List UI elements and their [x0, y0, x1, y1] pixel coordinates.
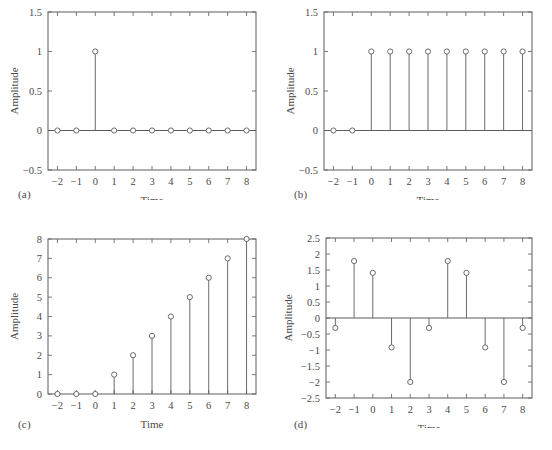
x-tick-label: 1	[388, 176, 393, 187]
x-tick-label: 7	[225, 176, 230, 187]
y-tick-label: 1	[315, 281, 320, 292]
stem-marker	[244, 128, 249, 133]
stem-marker	[187, 295, 192, 300]
panel-a: −2−1012345678−0.500.511.5TimeAmplitude (…	[0, 0, 276, 200]
stem-marker	[244, 236, 249, 241]
stem-marker	[206, 275, 211, 280]
x-axis-title: Time	[141, 418, 164, 428]
x-tick-label: 5	[464, 404, 469, 415]
x-tick-label: 6	[482, 176, 487, 187]
y-tick-label: −2.5	[301, 393, 320, 404]
y-tick-label: 0	[37, 389, 42, 400]
x-tick-label: 8	[520, 176, 525, 187]
x-tick-label: 4	[444, 176, 450, 187]
y-tick-label: −1.5	[301, 361, 320, 372]
x-axis-title: Time	[417, 194, 440, 200]
x-tick-label: −1	[71, 400, 82, 411]
stem-marker	[225, 256, 230, 261]
stem-marker	[444, 49, 449, 54]
x-tick-label: 6	[206, 400, 211, 411]
x-tick-label: 4	[168, 176, 174, 187]
stem-marker	[350, 128, 355, 133]
y-tick-label: 1	[37, 46, 42, 57]
stem-marker	[149, 128, 154, 133]
y-axis-title: Amplitude	[282, 294, 294, 341]
y-axis-title: Amplitude	[284, 67, 296, 114]
stem-marker	[408, 379, 413, 384]
stem-marker	[333, 325, 338, 330]
x-tick-label: 0	[369, 176, 374, 187]
panel-b-plot: −2−1012345678−0.500.511.5TimeAmplitude	[276, 0, 552, 200]
y-tick-label: 1	[37, 369, 42, 380]
stem-marker	[501, 49, 506, 54]
stem-marker	[206, 128, 211, 133]
y-axis-title: Amplitude	[8, 293, 20, 340]
y-tick-label: 6	[37, 272, 42, 283]
stem-marker	[482, 49, 487, 54]
figure-container: −2−1012345678−0.500.511.5TimeAmplitude (…	[0, 0, 552, 450]
panel-letter-a: (a)	[18, 188, 31, 200]
panel-letter-c: (c)	[18, 418, 31, 430]
y-tick-label: 7	[37, 253, 42, 264]
panel-letter-d: (d)	[294, 418, 307, 430]
stem-marker	[112, 372, 117, 377]
x-tick-label: −2	[52, 400, 63, 411]
x-tick-label: 4	[168, 400, 174, 411]
y-tick-label: 0.5	[307, 297, 320, 308]
stem-marker	[445, 258, 450, 263]
stem-marker	[464, 270, 469, 275]
panel-letter-b: (b)	[294, 188, 307, 200]
stem-marker	[406, 49, 411, 54]
stem-marker	[55, 391, 60, 396]
y-tick-label: 4	[37, 311, 43, 322]
x-tick-label: 1	[112, 176, 117, 187]
x-tick-label: 6	[206, 176, 211, 187]
x-tick-label: 6	[483, 404, 488, 415]
y-tick-label: 5	[37, 292, 42, 303]
stem-marker	[501, 379, 506, 384]
x-tick-label: 5	[463, 176, 468, 187]
stem-marker	[168, 314, 173, 319]
panel-b: −2−1012345678−0.500.511.5TimeAmplitude (…	[276, 0, 552, 200]
x-axis-title: Time	[141, 194, 164, 200]
x-tick-label: 2	[406, 176, 411, 187]
y-axis-title: Amplitude	[8, 67, 20, 114]
stem-marker	[426, 325, 431, 330]
stem-marker	[425, 49, 430, 54]
y-tick-label: 0.5	[305, 86, 318, 97]
stem-marker	[187, 128, 192, 133]
x-tick-label: 2	[408, 404, 413, 415]
y-tick-label: −1	[309, 345, 320, 356]
x-tick-label: 8	[520, 404, 525, 415]
stem-marker	[463, 49, 468, 54]
stem-marker	[93, 49, 98, 54]
stem-marker	[520, 325, 525, 330]
stem-marker	[55, 128, 60, 133]
panel-d: −2−1012345678−2.5−2−1.5−1−0.500.511.522.…	[276, 228, 552, 428]
x-tick-label: 3	[426, 404, 431, 415]
stem-marker	[130, 353, 135, 358]
x-tick-label: −1	[349, 404, 360, 415]
stem-marker	[74, 391, 79, 396]
x-tick-label: 8	[244, 176, 249, 187]
y-tick-label: −0.5	[299, 165, 318, 176]
stem-marker	[168, 128, 173, 133]
y-tick-label: 3	[37, 330, 42, 341]
y-tick-label: 2	[37, 350, 42, 361]
y-tick-label: 0	[315, 313, 320, 324]
stem-marker	[369, 49, 374, 54]
stem-marker	[351, 258, 356, 263]
y-tick-label: −0.5	[301, 329, 320, 340]
x-tick-label: 8	[244, 400, 249, 411]
stem-marker	[388, 49, 393, 54]
x-tick-label: 4	[445, 404, 451, 415]
x-tick-label: 0	[93, 176, 98, 187]
y-tick-label: 2.5	[307, 233, 320, 244]
y-tick-label: 1	[313, 46, 318, 57]
plot-frame	[48, 12, 256, 170]
panel-d-plot: −2−1012345678−2.5−2−1.5−1−0.500.511.522.…	[276, 228, 552, 428]
x-tick-label: 5	[187, 176, 192, 187]
y-tick-label: 1.5	[307, 265, 320, 276]
x-tick-label: −2	[330, 404, 341, 415]
x-tick-label: 0	[370, 404, 375, 415]
